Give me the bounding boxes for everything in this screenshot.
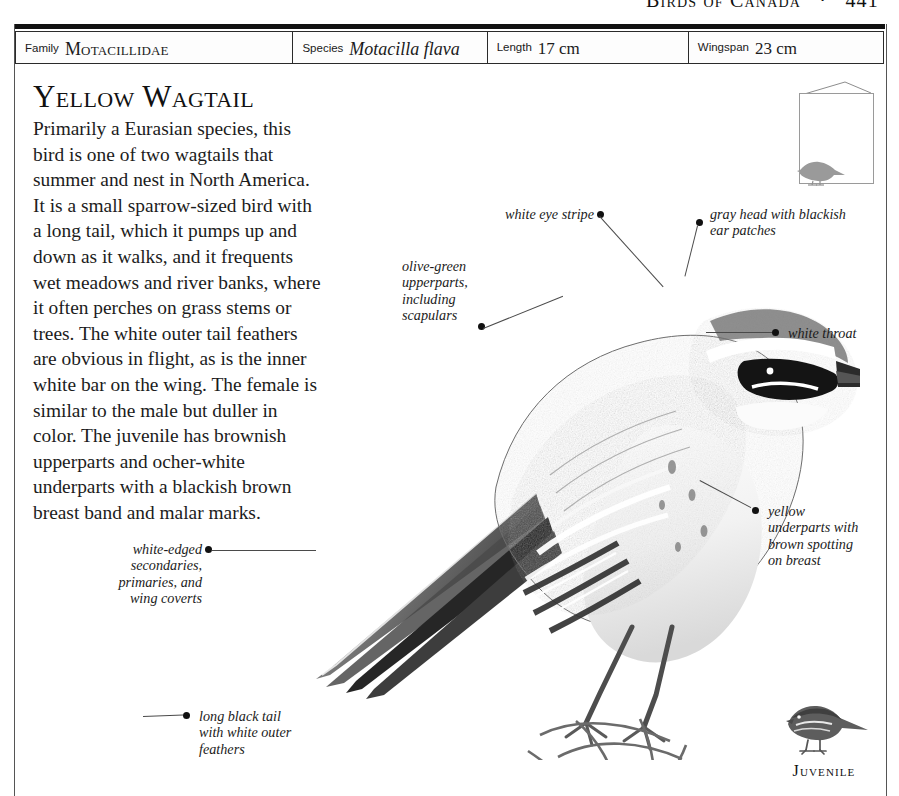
annotation-white-edged-feathers: white-edged secondaries, primaries, and … bbox=[110, 541, 202, 607]
data-key-species: Species bbox=[302, 42, 343, 54]
juvenile-caption: Juvenile bbox=[772, 762, 876, 780]
data-value-wingspan: 23 cm bbox=[755, 39, 797, 59]
annotation-dot-white-throat bbox=[772, 329, 779, 336]
page-title: Yellow Wagtail bbox=[33, 79, 254, 115]
running-head-separator: · bbox=[819, 0, 827, 11]
data-key-length: Length bbox=[497, 41, 532, 53]
annotation-dot-yellow-underparts bbox=[752, 507, 759, 514]
annotation-olive-green-upperparts: olive-green upperparts, including scapul… bbox=[402, 258, 522, 324]
data-key-wingspan: Wingspan bbox=[698, 41, 749, 53]
species-description: Primarily a Eurasian species, this bird … bbox=[33, 116, 321, 526]
data-cell-length: Length 17 cm bbox=[488, 32, 689, 63]
annotation-dot-long-black-tail bbox=[183, 712, 190, 719]
data-cell-wingspan: Wingspan 23 cm bbox=[689, 32, 883, 63]
leader-line-white-throat bbox=[706, 332, 772, 333]
data-value-species: Motacilla flava bbox=[349, 39, 459, 60]
running-head-title: Birds of Canada bbox=[646, 0, 801, 11]
data-cell-family: Family Motacillidae bbox=[16, 32, 293, 63]
annotation-long-black-tail: long black tail with white outer feather… bbox=[199, 708, 329, 757]
annotation-gray-head: gray head with blackish ear patches bbox=[710, 206, 880, 239]
data-cell-species: Species Motacilla flava bbox=[293, 32, 487, 63]
annotation-yellow-underparts: yellow underparts with brown spotting on… bbox=[768, 503, 894, 569]
size-comparison-bird-icon bbox=[795, 156, 847, 186]
main-bird-illustration bbox=[300, 175, 860, 760]
species-data-strip: Family Motacillidae Species Motacilla fl… bbox=[15, 31, 884, 64]
data-value-length: 17 cm bbox=[538, 39, 580, 59]
leader-line-white-edged-feathers bbox=[212, 550, 316, 551]
running-head: Birds of Canada · 441 bbox=[646, 0, 879, 12]
data-key-family: Family bbox=[25, 42, 59, 54]
annotation-white-eye-stripe: white eye stripe bbox=[486, 206, 594, 222]
annotation-dot-white-edged-feathers bbox=[205, 546, 212, 553]
page-number: 441 bbox=[845, 0, 879, 11]
data-value-family: Motacillidae bbox=[65, 39, 169, 60]
annotation-white-throat: white throat bbox=[788, 325, 898, 341]
juvenile-figure: Juvenile bbox=[772, 694, 876, 780]
